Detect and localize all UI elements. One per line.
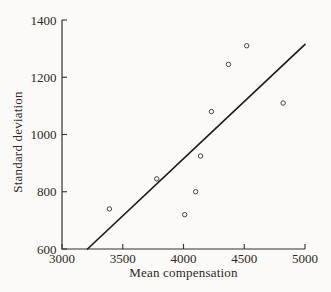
data-point bbox=[244, 44, 248, 48]
x-tick-label: 3500 bbox=[110, 251, 136, 266]
y-tick-label: 600 bbox=[37, 242, 57, 257]
data-point bbox=[226, 62, 230, 66]
data-point bbox=[183, 212, 187, 216]
data-point bbox=[281, 101, 285, 105]
y-tick-label: 1000 bbox=[31, 127, 57, 142]
trend-line bbox=[88, 44, 305, 249]
y-tick-label: 800 bbox=[37, 184, 57, 199]
data-point bbox=[155, 177, 159, 181]
data-point bbox=[193, 190, 197, 194]
data-point bbox=[107, 207, 111, 211]
y-tick-label: 1200 bbox=[31, 70, 57, 85]
y-tick-label: 1400 bbox=[31, 13, 57, 28]
chart-canvas: 30003500400045005000600800100012001400 bbox=[0, 0, 331, 292]
x-tick-label: 5000 bbox=[292, 251, 318, 266]
x-tick-label: 4500 bbox=[231, 251, 257, 266]
y-axis-title: Standard deviation bbox=[10, 64, 26, 220]
x-axis-title: Mean compensation bbox=[62, 265, 305, 280]
scatter-plot-figure: 30003500400045005000600800100012001400 M… bbox=[0, 0, 331, 292]
x-tick-label: 4000 bbox=[171, 251, 197, 266]
data-point bbox=[198, 154, 202, 158]
data-point bbox=[209, 109, 213, 113]
